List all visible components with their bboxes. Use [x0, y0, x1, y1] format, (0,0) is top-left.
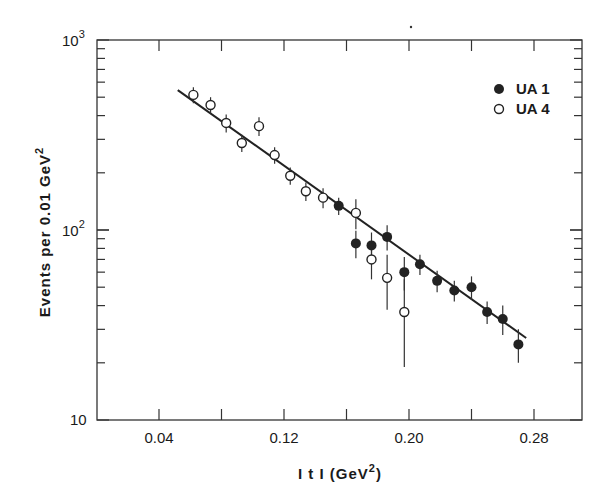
error-bars — [193, 87, 518, 367]
ua1-point — [382, 232, 392, 242]
ua4-point — [383, 273, 392, 282]
ua1-point — [482, 307, 492, 317]
ua4-point — [286, 171, 295, 180]
legend-ua4-marker — [495, 105, 504, 114]
ua4-point — [237, 139, 246, 148]
y-axis-title: Events per 0.01 GeV2 — [33, 147, 53, 317]
y-axis-ticks — [97, 40, 582, 420]
y-tick-label-1000: 103 — [62, 28, 85, 49]
ua1-point — [367, 240, 377, 250]
legend-ua4-label: UA 4 — [516, 100, 550, 117]
ua4-point — [222, 118, 231, 127]
ua1-point — [513, 339, 523, 349]
legend-ua1-marker — [494, 84, 504, 94]
legend: UA 1 UA 4 — [494, 80, 550, 117]
ua4-point — [301, 187, 310, 196]
ua4-point — [270, 151, 279, 160]
ua4-point — [189, 90, 198, 99]
scatter-chart: 103 102 10 0.04 0.12 0.20 0.28 I t I (Ge… — [0, 0, 612, 503]
x-axis-ticks — [159, 40, 534, 420]
ua1-point — [415, 259, 425, 269]
ua4-point — [206, 100, 215, 109]
ua1-point — [498, 314, 508, 324]
ua1-point — [467, 282, 477, 292]
ua1-point — [351, 238, 361, 248]
x-axis-title: I t I (GeV2) — [298, 462, 382, 482]
y-tick-label-100: 102 — [62, 218, 85, 239]
ua1-point — [432, 276, 442, 286]
x-tick-label-0.28: 0.28 — [519, 429, 548, 446]
ua1-point — [334, 201, 344, 211]
ua4-point — [319, 193, 328, 202]
ua4-point — [400, 308, 409, 317]
ua1-point — [449, 286, 459, 296]
ua4-point — [351, 208, 360, 217]
x-tick-label-0.20: 0.20 — [394, 429, 423, 446]
stray-dot — [410, 26, 412, 28]
legend-ua1-label: UA 1 — [516, 80, 550, 97]
ua4-point — [255, 122, 264, 131]
y-tick-label-10: 10 — [70, 411, 87, 428]
ua1-point — [399, 267, 409, 277]
ua4-point — [367, 255, 376, 264]
plot-frame — [97, 40, 582, 420]
x-tick-label-0.04: 0.04 — [144, 429, 173, 446]
x-tick-label-0.12: 0.12 — [269, 429, 298, 446]
